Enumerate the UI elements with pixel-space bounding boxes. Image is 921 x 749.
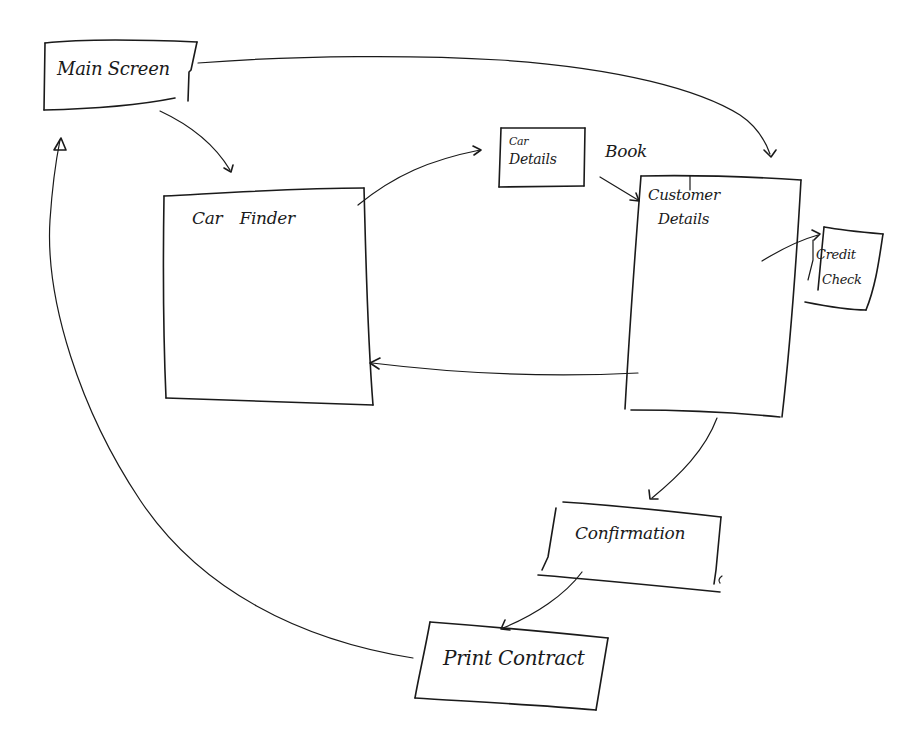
credit-check-label-line2: Check xyxy=(822,273,862,287)
customer-details-label-line2: Details xyxy=(658,212,709,228)
confirmation-label: Confirmation xyxy=(575,525,685,543)
book-annotation: Book xyxy=(605,143,647,161)
arrow-confirmation-to-print-contract xyxy=(501,572,582,630)
arrow-customer-details-to-credit-check xyxy=(762,230,820,261)
main-screen-label: Main Screen xyxy=(57,60,170,79)
car-finder-label: Car Finder xyxy=(192,210,295,228)
print-contract-label: Print Contract xyxy=(443,648,584,669)
car-details-label-line2: Details xyxy=(509,152,557,167)
arrow-car-details-to-customer-details xyxy=(600,177,639,201)
arrow-customer-details-to-confirmation xyxy=(649,418,717,499)
sketch-lines xyxy=(0,0,921,749)
arrow-car-finder-to-car-details xyxy=(358,146,481,205)
arrow-main-to-customer-details xyxy=(198,57,776,157)
screen-flow-diagram: Main Screen Car Finder Car Details Book … xyxy=(0,0,921,749)
credit-check-label-line1: Credit xyxy=(816,248,856,262)
arrow-customer-details-to-car-finder xyxy=(370,358,638,375)
customer-details-label-line1: Customer xyxy=(648,188,720,204)
arrow-main-to-car-finder xyxy=(160,111,233,172)
confirmation-box xyxy=(538,502,722,592)
customer-details-box xyxy=(625,176,801,417)
car-details-label-line1: Car xyxy=(509,136,528,148)
credit-check-box xyxy=(805,227,883,310)
